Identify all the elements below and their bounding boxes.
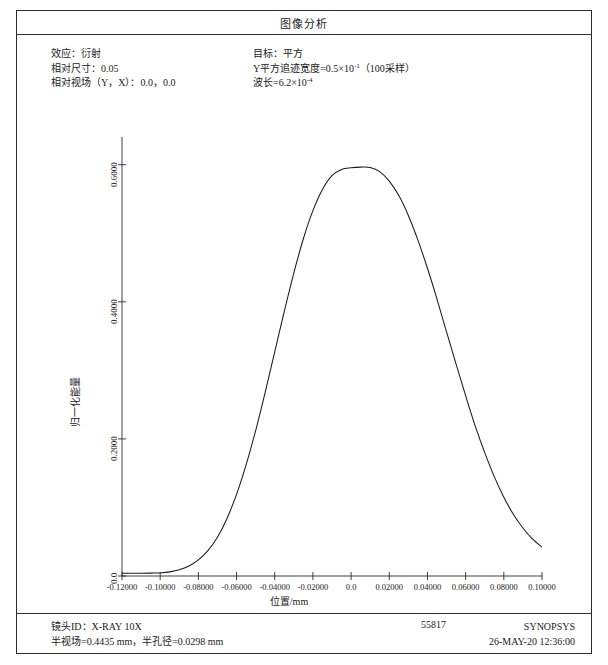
- vendor-name: SYNOPSYS: [489, 619, 575, 634]
- footer-left: 镜头ID：X-RAY 10X 半视场=0.4435 mm，半孔径=0.0298 …: [51, 619, 223, 649]
- y-axis-title: 归一化能量: [67, 377, 82, 427]
- param-trace-width: Y平方追迹宽度=0.5×10-1（100采样）: [253, 62, 415, 77]
- field-aperture: 半视场=0.4435 mm，半孔径=0.0298 mm: [51, 634, 223, 649]
- report-page: 图像分析 效应：衍射 相对尺寸：0.05 相对视场（Y，X）：0.0，0.0 目…: [16, 10, 592, 654]
- param-effect: 效应：衍射: [51, 47, 175, 62]
- footer-right: SYNOPSYS 26-MAY-20 12:36:00: [489, 619, 575, 649]
- x-axis-title: 位置/mm: [17, 593, 591, 608]
- parameters-left-column: 效应：衍射 相对尺寸：0.05 相对视场（Y，X）：0.0，0.0: [51, 47, 175, 91]
- y-tick-label: 0.4000: [109, 299, 119, 324]
- parameters-right-column: 目标：平方 Y平方追迹宽度=0.5×10-1（100采样） 波长=6.2×10-…: [253, 47, 415, 91]
- wavelength-exponent: -4: [307, 76, 313, 84]
- param-relative-size: 相对尺寸：0.05: [51, 62, 175, 77]
- wavelength-text: 波长=6.2×10: [253, 77, 307, 88]
- timestamp: 26-MAY-20 12:36:00: [489, 634, 575, 649]
- window-title-bar: 图像分析: [17, 11, 591, 35]
- analysis-parameters: 效应：衍射 相对尺寸：0.05 相对视场（Y，X）：0.0，0.0 目标：平方 …: [17, 35, 591, 97]
- y-tick-label: 0.2000: [109, 436, 119, 461]
- y-tick-label: 0.6000: [109, 162, 119, 187]
- trace-width-sampling: （100采样）: [360, 63, 415, 74]
- serial-number: 55817: [421, 619, 446, 630]
- param-target: 目标：平方: [253, 47, 415, 62]
- param-relative-field: 相对视场（Y，X）：0.0，0.0: [51, 76, 175, 91]
- page-title: 图像分析: [280, 15, 328, 31]
- trace-width-text: Y平方追迹宽度=0.5×10: [253, 63, 354, 74]
- x-tick-label: 0.10000: [514, 582, 570, 592]
- line-chart: [17, 97, 593, 615]
- report-footer: 镜头ID：X-RAY 10X 半视场=0.4435 mm，半孔径=0.0298 …: [17, 613, 591, 653]
- chart-area: 归一化能量 位置/mm 0.00.20000.40000.6000 -0.120…: [17, 97, 591, 615]
- lens-id: 镜头ID：X-RAY 10X: [51, 619, 223, 634]
- param-wavelength: 波长=6.2×10-4: [253, 76, 415, 91]
